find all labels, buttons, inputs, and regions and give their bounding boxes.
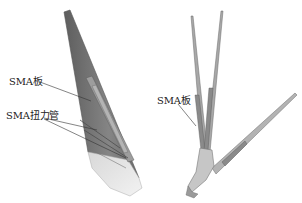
label-sma-plate: SMA板 bbox=[9, 77, 43, 87]
sma-wing-diagram: SMA板 SMA扭力管 SMA板 bbox=[0, 0, 302, 203]
leader-line-right bbox=[178, 104, 196, 126]
label-sma-plate-right: SMA板 bbox=[157, 96, 191, 106]
skeletal-structure bbox=[186, 11, 297, 198]
wing-model bbox=[64, 10, 142, 196]
label-sma-torque-tube: SMA扭力管 bbox=[6, 111, 59, 121]
diagram-graphics bbox=[0, 0, 302, 203]
